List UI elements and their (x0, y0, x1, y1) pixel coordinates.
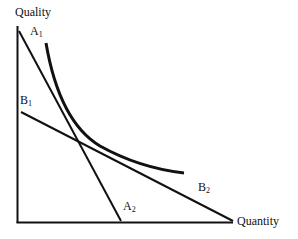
budget-line-a (19, 31, 121, 221)
label-a1: A1 (30, 25, 43, 39)
label-a1-sub: 1 (39, 30, 43, 39)
label-a2-sub: 2 (132, 205, 136, 214)
indifference-curve (46, 43, 184, 173)
diagram-canvas (0, 0, 298, 239)
label-b1: B1 (20, 94, 32, 108)
y-axis-label: Quality (15, 6, 51, 18)
label-b1-letter: B (20, 93, 28, 107)
label-a1-letter: A (30, 24, 39, 38)
label-b2-letter: B (198, 180, 206, 194)
label-b1-sub: 1 (28, 99, 32, 108)
x-axis-label: Quantity (237, 215, 279, 227)
label-a2: A2 (123, 200, 136, 214)
label-b2-sub: 2 (206, 186, 210, 195)
label-b2: B2 (198, 181, 210, 195)
label-a2-letter: A (123, 199, 132, 213)
